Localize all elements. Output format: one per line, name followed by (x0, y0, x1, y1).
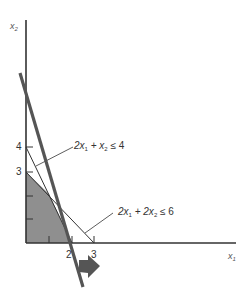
lp-diagram (0, 0, 250, 304)
x-tick-3: 3 (91, 250, 97, 260)
x-tick-2: 2 (66, 250, 72, 260)
constraint-label-2: 2x1 + 2x2 ≤ 6 (118, 207, 174, 218)
x-axis-label: x1 (228, 252, 236, 262)
y-tick-4: 4 (16, 142, 22, 152)
y-axis-label: x2 (10, 22, 18, 32)
constraint-label-1: 2x1 + x2 ≤ 4 (74, 141, 124, 152)
feasible-region (26, 172, 72, 243)
y-tick-3: 3 (16, 167, 22, 177)
